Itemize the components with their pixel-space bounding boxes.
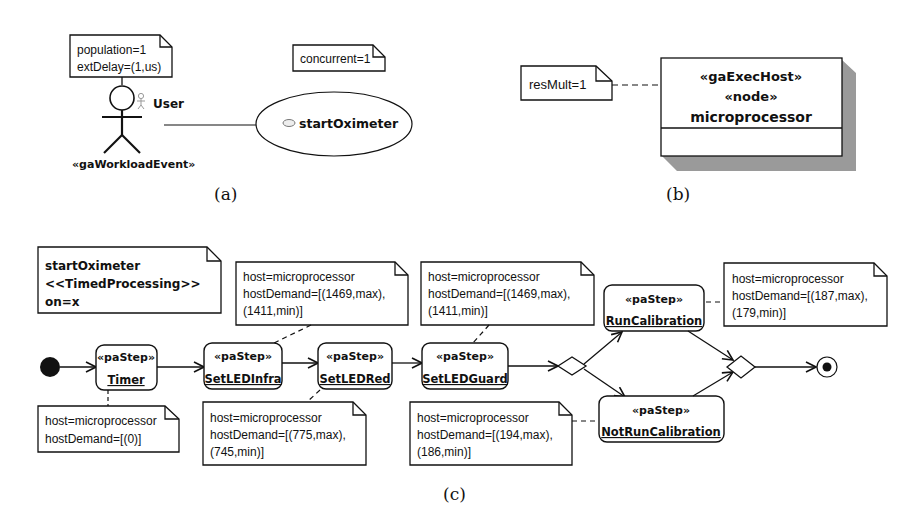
context-note-line-1: startOximeter — [45, 259, 140, 273]
notruncalibration-note[interactable]: host=microprocessor hostDemand=[(194,max… — [410, 402, 572, 465]
runcalibration-note-line-2: hostDemand=[(187,max), — [732, 289, 868, 303]
step-setledinfra[interactable]: «paStep» SetLEDInfra — [204, 343, 282, 389]
node-stereotype-gaexechost: «gaExecHost» — [700, 69, 802, 84]
node-microprocessor[interactable]: «gaExecHost» «node» microprocessor — [661, 58, 842, 156]
usecase-note-line-1: concurrent=1 — [300, 52, 371, 66]
actor-icon[interactable] — [102, 86, 142, 153]
notruncalibration-note-line-1: host=microprocessor — [417, 411, 529, 425]
runcalibration-note-line-3: (179,min)] — [732, 306, 786, 320]
caption-c: (c) — [443, 484, 466, 504]
step-name: SetLEDInfra — [204, 372, 281, 386]
step-notruncalibration[interactable]: «paStep» NotRunCalibration — [599, 396, 724, 442]
timer-note-line-1: host=microprocessor — [45, 414, 157, 428]
step-name: SetLEDRed — [319, 372, 390, 386]
setledinfra-note-line-3: (1411,min)] — [243, 304, 303, 318]
setledguard-note-line-3: (1411,min)] — [428, 304, 488, 318]
actor-note-line-1: population=1 — [77, 43, 146, 57]
setledinfra-note-line-2: hostDemand=[(1469,max), — [243, 287, 385, 301]
context-note[interactable]: startOximeter <<TimedProcessing>> on=x — [38, 247, 221, 313]
setledguard-note[interactable]: host=microprocessor hostDemand=[(1469,ma… — [421, 262, 594, 325]
context-note-line-2: <<TimedProcessing>> — [45, 277, 201, 291]
resmult-note[interactable]: resMult=1 — [521, 66, 612, 100]
diagram-canvas: population=1 extDelay=(1,us) User «gaWor… — [0, 0, 920, 532]
timer-note-line-2: hostDemand=[(0)] — [45, 432, 141, 446]
step-name: Timer — [107, 373, 145, 387]
notruncalibration-note-line-3: (186,min)] — [417, 445, 471, 459]
use-case-startoximeter[interactable]: startOximeter — [256, 92, 412, 156]
use-case-icon — [283, 120, 295, 127]
step-stereotype: «paStep» — [436, 350, 494, 363]
node-stereotype-node: «node» — [724, 89, 777, 104]
setledguard-note-line-1: host=microprocessor — [428, 270, 540, 284]
resmult-note-line-1: resMult=1 — [529, 77, 586, 92]
setledred-note-line-1: host=microprocessor — [210, 411, 322, 425]
runcalibration-note-line-1: host=microprocessor — [732, 272, 844, 286]
actor-note[interactable]: population=1 extDelay=(1,us) — [70, 35, 172, 77]
final-node — [817, 357, 837, 377]
decision-node — [558, 357, 586, 375]
notruncalibration-note-line-2: hostDemand=[(194,max), — [417, 428, 553, 442]
setledinfra-note-line-1: host=microprocessor — [243, 270, 355, 284]
actor-name: User — [153, 97, 184, 111]
step-timer[interactable]: «paStep» Timer — [96, 345, 157, 390]
step-stereotype: «paStep» — [214, 350, 272, 363]
initial-node — [40, 357, 60, 377]
step-name: SetLEDGuard — [422, 372, 508, 386]
use-case-name: startOximeter — [299, 116, 399, 131]
step-name: NotRunCalibration — [601, 425, 721, 439]
step-stereotype: «paStep» — [97, 351, 155, 364]
setledred-note[interactable]: host=microprocessor hostDemand=[(775,max… — [203, 402, 366, 465]
step-stereotype: «paStep» — [625, 293, 683, 306]
caption-b: (b) — [666, 184, 690, 204]
step-stereotype: «paStep» — [326, 350, 384, 363]
setledred-note-line-3: (745,min)] — [210, 445, 264, 459]
runcalibration-note[interactable]: host=microprocessor hostDemand=[(187,max… — [724, 263, 887, 326]
actor-note-line-2: extDelay=(1,us) — [77, 60, 161, 74]
actor-stereotype: «gaWorkloadEvent» — [72, 158, 195, 171]
setledguard-note-line-2: hostDemand=[(1469,max), — [428, 287, 570, 301]
usecase-note[interactable]: concurrent=1 — [293, 45, 385, 71]
timer-note[interactable]: host=microprocessor hostDemand=[(0)] — [38, 406, 179, 452]
context-note-line-3: on=x — [45, 295, 80, 309]
step-runcalibration[interactable]: «paStep» RunCalibration — [604, 285, 704, 331]
caption-a: (a) — [214, 184, 237, 204]
panel-a: population=1 extDelay=(1,us) User «gaWor… — [70, 35, 412, 204]
setledred-note-line-2: hostDemand=[(775,max), — [210, 428, 346, 442]
step-setledred[interactable]: «paStep» SetLEDRed — [318, 343, 392, 389]
panel-b: resMult=1 «gaExecHost» «node» microproce… — [521, 58, 856, 204]
step-name: RunCalibration — [606, 314, 703, 328]
node-name: microprocessor — [690, 109, 812, 125]
small-actor-icon — [137, 93, 145, 109]
panel-c: startOximeter <<TimedProcessing>> on=x h… — [38, 247, 887, 504]
step-setledguard[interactable]: «paStep» SetLEDGuard — [422, 343, 508, 389]
setledinfra-note[interactable]: host=microprocessor hostDemand=[(1469,ma… — [236, 262, 408, 325]
step-stereotype: «paStep» — [632, 404, 690, 417]
